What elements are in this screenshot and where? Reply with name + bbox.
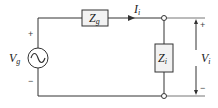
ii-label: Ii	[133, 2, 140, 17]
vi-minus-sign: −	[200, 83, 205, 93]
terminal-bottom	[162, 94, 167, 99]
circuit-diagram: Zg Zi Vg + − Ii Vi + −	[0, 0, 218, 108]
vg-minus-sign: −	[28, 76, 33, 86]
terminal-top	[162, 16, 167, 21]
vi-arrowhead-down-icon	[194, 90, 198, 95]
vi-plus-sign: +	[200, 20, 205, 30]
vi-arrowhead-up-icon	[194, 19, 198, 24]
vg-label: Vg	[9, 51, 20, 66]
vi-label: Vi	[201, 51, 211, 66]
circuit-svg: Zg Zi Vg + − Ii Vi + −	[0, 0, 218, 108]
vg-plus-sign: +	[28, 29, 33, 39]
